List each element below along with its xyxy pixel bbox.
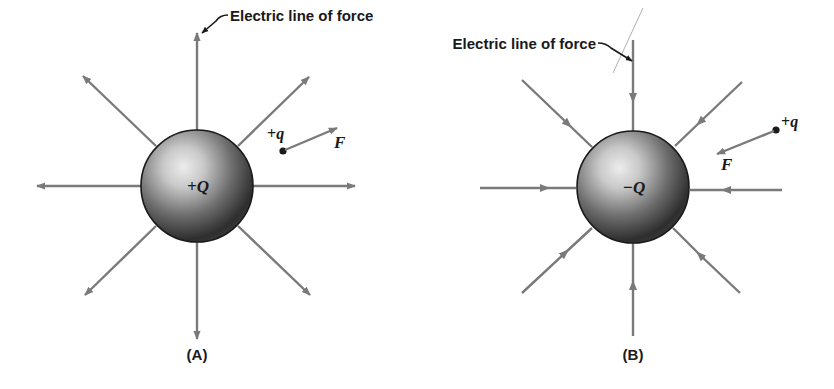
force-label: F — [333, 133, 346, 152]
panel-b: −Q Electric line of force +q F (B) — [453, 8, 799, 363]
source-charge-label: +Q — [187, 177, 209, 196]
field-line-up-right — [675, 82, 742, 146]
force-vector-arrow — [717, 131, 774, 154]
callout-label: Electric line of force — [453, 35, 596, 52]
callout-pointer — [598, 43, 632, 61]
field-line-down-right — [673, 228, 740, 293]
field-line-down-left — [85, 226, 156, 295]
callout-pointer — [202, 15, 228, 33]
force-label: F — [720, 155, 733, 174]
field-line-up-left — [83, 76, 156, 146]
field-line-down-left — [522, 228, 592, 293]
source-charge-label: −Q — [623, 178, 646, 197]
panel-caption: (B) — [623, 346, 644, 363]
panel-a: +Q Electric line of force +q F (A) — [37, 7, 373, 363]
test-charge-label: +q — [781, 113, 798, 131]
force-vector-arrow — [285, 128, 337, 150]
callout-label: Electric line of force — [230, 7, 373, 24]
test-charge-label: +q — [267, 125, 284, 143]
field-line-down-right — [238, 226, 310, 295]
field-line-up-left — [522, 80, 592, 147]
electric-field-diagram: +Q Electric line of force +q F (A) −Q — [0, 0, 834, 389]
panel-caption: (A) — [187, 346, 208, 363]
callout-slash-line — [613, 8, 643, 73]
